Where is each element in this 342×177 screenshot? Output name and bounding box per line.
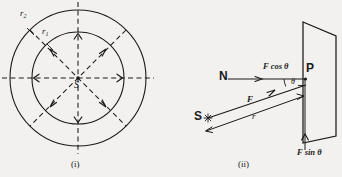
caption-panel-i: (i)	[71, 160, 80, 169]
star-marker-source	[204, 114, 213, 123]
physics-figure	[0, 0, 342, 177]
arrowhead-force	[267, 90, 275, 96]
radius-ticks	[27, 28, 53, 50]
label-source-s-panel-i: S	[74, 80, 79, 90]
caption-panel-ii: (ii)	[238, 160, 249, 169]
angle-arc-theta	[284, 79, 286, 87]
label-distance-r: r	[252, 112, 256, 121]
arrowhead-sw	[50, 100, 57, 107]
arrowhead-se	[100, 100, 107, 107]
label-s-panel-ii: S	[194, 110, 202, 122]
label-inner-radius: r1	[42, 27, 49, 37]
panel-ii-group	[204, 22, 336, 150]
panel-i-group	[2, 2, 154, 154]
label-theta: θ	[291, 78, 295, 86]
label-force-f: F	[247, 95, 253, 104]
plane-parallelogram	[303, 22, 336, 143]
label-f-cos-theta: F cos θ	[263, 62, 289, 71]
label-outer-radius: r2	[20, 9, 27, 19]
label-p: P	[306, 62, 314, 74]
label-n: N	[219, 70, 228, 82]
point-p-dot	[304, 77, 307, 80]
label-f-sin-theta: F sin θ	[297, 148, 322, 157]
